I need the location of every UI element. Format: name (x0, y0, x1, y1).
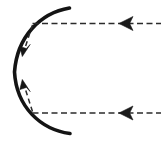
figure-background (0, 0, 161, 150)
ray-diagram-svg (0, 0, 161, 150)
figure-root (0, 0, 161, 150)
